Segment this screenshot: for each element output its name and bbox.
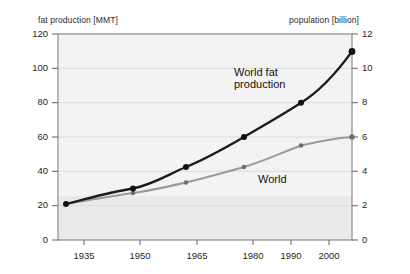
data-point-fat-1965 <box>183 164 189 170</box>
chart-figure: fat production [MMT] population [billion… <box>0 0 410 274</box>
y-left-tick-100: 100 <box>22 62 48 73</box>
y-right-tick-10: 10 <box>362 62 388 73</box>
x-tick-2000: 2000 <box>309 250 349 261</box>
plot-background-lower <box>58 196 352 240</box>
y-right-tick-6: 6 <box>362 131 388 142</box>
y-left-tick-40: 40 <box>22 165 48 176</box>
data-point-fat-1950 <box>130 186 136 192</box>
data-point-population-1980 <box>242 165 247 170</box>
data-point-population-1990 <box>299 143 304 148</box>
y-right-tick-12: 12 <box>362 28 388 39</box>
y-left-tick-80: 80 <box>22 96 48 107</box>
y-left-tick-0: 0 <box>22 234 48 245</box>
series-label-population: World <box>258 173 287 185</box>
series-label-fat-production-line2: production <box>234 78 285 90</box>
plot-area <box>0 0 410 274</box>
data-point-fat-1935 <box>63 201 69 207</box>
y-right-tick-8: 8 <box>362 96 388 107</box>
data-point-population-1965 <box>184 180 189 185</box>
data-point-fat-2000 <box>349 48 356 55</box>
x-ticks <box>84 240 329 245</box>
x-tick-1980: 1980 <box>233 250 273 261</box>
y-left-ticks <box>52 34 58 240</box>
data-point-fat-1980 <box>241 134 247 140</box>
y-right-tick-4: 4 <box>362 165 388 176</box>
x-tick-1990: 1990 <box>271 250 311 261</box>
series-label-fat-production-line1: World fat <box>234 66 285 78</box>
data-point-population-2000 <box>349 134 355 140</box>
data-point-fat-1990 <box>298 100 304 106</box>
y-right-tick-2: 2 <box>362 199 388 210</box>
x-tick-1935: 1935 <box>64 250 104 261</box>
y-right-tick-0: 0 <box>362 234 388 245</box>
x-tick-1950: 1950 <box>120 250 160 261</box>
y-left-tick-120: 120 <box>22 28 48 39</box>
x-tick-1965: 1965 <box>177 250 217 261</box>
y-left-tick-60: 60 <box>22 131 48 142</box>
series-label-fat-production: World fat production <box>234 66 285 91</box>
y-left-tick-20: 20 <box>22 199 48 210</box>
